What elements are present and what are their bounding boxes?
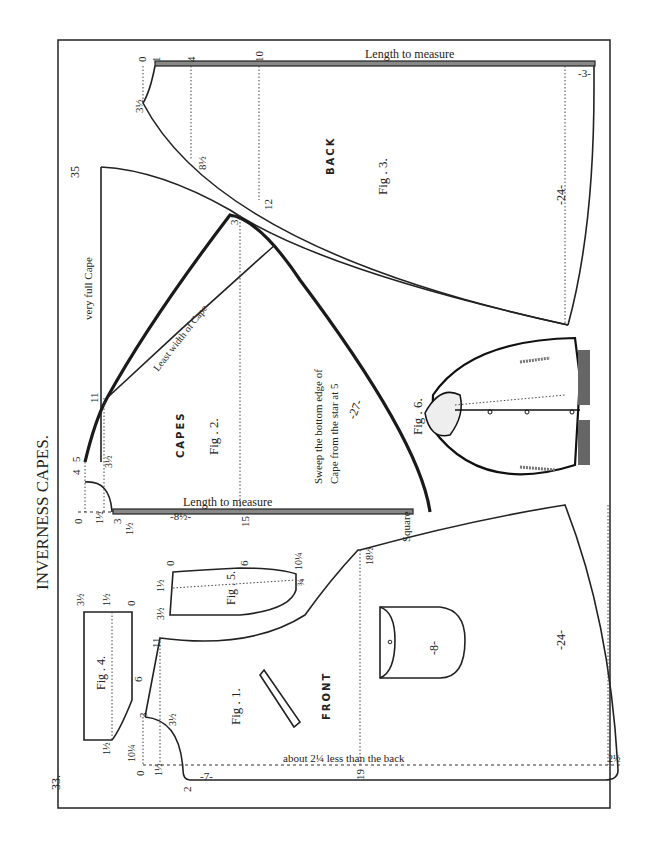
pattern-label: 0 — [72, 518, 84, 524]
pattern-label: Fig . 2. — [206, 418, 221, 455]
pattern-label: Fig . 5. — [224, 571, 238, 605]
pattern-label: 8½ — [196, 156, 208, 170]
pattern-label: -3- — [578, 67, 591, 79]
pattern-sheet: INVERNESS CAPES. 33. Length to measure B… — [0, 0, 655, 844]
pattern-label: -7- — [200, 770, 213, 782]
front-label: FRONT — [321, 672, 332, 720]
pattern-label: 3 — [137, 712, 149, 718]
pattern-label: 6 — [132, 676, 144, 682]
pattern-label: 12 — [262, 199, 274, 210]
pattern-label: Sweep the bottom edge of — [312, 369, 324, 484]
pattern-label: 1½ — [101, 593, 112, 606]
pattern-label: Fig . 1. — [228, 688, 243, 725]
pattern-label: 6 — [238, 560, 250, 566]
pattern-label: 15 — [239, 516, 251, 528]
pattern-label: 1½ — [155, 579, 166, 592]
pattern-label: 11 — [150, 637, 162, 648]
pattern-label: 0 — [134, 770, 146, 776]
pattern-label: 3½ — [167, 713, 178, 726]
figure-5: Fig . 5. 0 6 10¼ 1½ 3½ ¾ — [155, 552, 306, 620]
pattern-label: 4 — [70, 469, 82, 475]
page-number: 33. — [49, 775, 63, 790]
pattern-label: 4 — [185, 56, 197, 62]
pattern-label: very full Cape — [82, 257, 94, 320]
pattern-label: -8½- — [170, 510, 191, 522]
back-label: BACK — [325, 137, 336, 175]
pattern-label: Fig . 6. — [410, 398, 425, 435]
pattern-label: -24- — [554, 185, 568, 205]
pattern-label: about 2¼ less than the back — [283, 752, 405, 764]
pattern-label: 3½ — [155, 607, 166, 620]
pattern-label: Cape from the star at 5 — [328, 383, 340, 484]
pattern-label: Length to measure — [365, 47, 454, 61]
pattern-label: 3 — [111, 518, 123, 524]
pattern-label: 2½ — [608, 753, 621, 764]
pattern-label: 10¼ — [126, 744, 137, 762]
pattern-label: Length to measure — [183, 495, 272, 509]
pattern-label: ¾ — [295, 579, 306, 587]
pattern-label: 31 — [228, 214, 240, 225]
figure-1-front: FRONT Fig . 1. about 2¼ less than the ba… — [134, 505, 621, 792]
pattern-label: 3½ — [133, 99, 145, 113]
pattern-label: Fig . 4. — [94, 656, 108, 690]
pattern-label: 1 — [150, 57, 162, 63]
pattern-label: 1½ — [101, 742, 112, 755]
pattern-label: 19 — [354, 769, 366, 781]
pattern-label: -8- — [427, 641, 441, 655]
pattern-label: 11 — [88, 392, 100, 403]
pattern-label: -24- — [554, 630, 568, 650]
pattern-label: 10¼ — [293, 552, 304, 570]
pattern-label: 0 — [136, 56, 148, 62]
pattern-label: 1½ — [124, 522, 135, 535]
pattern-label: 5 — [70, 456, 82, 462]
pattern-label: 1½ — [94, 511, 105, 524]
page-title: INVERNESS CAPES. — [33, 435, 52, 590]
pattern-label: 10 — [253, 51, 265, 63]
pattern-label: 0 — [164, 560, 176, 566]
pattern-label: 2 — [181, 787, 193, 793]
figure-4: Fig . 4. 3½ 1½ 0 6 1½ 10¼ — [75, 593, 144, 762]
capes-label: CAPES — [175, 412, 186, 458]
figure-3-back: Length to measure BACK Fig . 3. 0 1 4 10… — [133, 47, 595, 325]
pattern-label: 3½ — [75, 593, 86, 606]
pattern-label: Fig . 3. — [375, 158, 390, 195]
pattern-label: 0 — [125, 600, 137, 606]
pattern-label: 35 — [68, 166, 82, 178]
pattern-label: -27- — [345, 397, 365, 421]
figure-6-illustration: Fig . 6. — [410, 338, 590, 474]
pattern-label: 1½ — [153, 763, 164, 776]
pattern-label: 18½ — [364, 547, 375, 565]
pattern-label: 3½ — [103, 455, 114, 468]
